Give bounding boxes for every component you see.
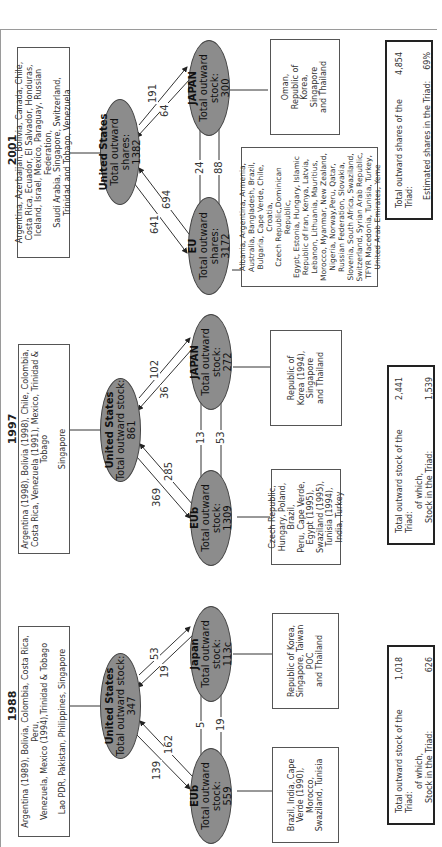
eu-partner-line: Nigeria, Norway,Peru, Qatar, [328,163,337,270]
node-name: United States [104,667,115,744]
eu-partner-line: Albania, Argentina, Armenia, [238,163,247,271]
summary-total-label: Total outward shares of the Triad: [395,80,415,208]
japan-partner-line: Korea, [300,74,310,99]
us-partner-line: Iceland, Israel, Mexico, Paraguay, Russi… [34,51,53,254]
node-value: 300 [220,78,231,97]
node-name: EU [187,239,198,254]
summary-in-triad-value: 1,539 [425,377,435,405]
eu-partner-line: Tunisia (1994), [325,488,335,547]
japan-partner-line: Korea (1994), [297,351,307,405]
us-node: United States Total outward stock: 861 [100,378,141,482]
eu-partner-line: Hungary, Poland, Brazil, [278,473,297,561]
node-label: Total outward stock: [200,315,222,409]
flow-us-to-eu: 641 [150,214,160,235]
node-label: Total outward shares: [109,100,131,204]
us-partner-line: Costa Rica, Venezuela (1991), Mexico, Tr… [31,351,41,547]
us-partner-line: Costa Rica, Ecuador, El Salvador, Hondur… [25,64,35,240]
flow-us-to-japan: 19 [160,664,170,679]
eu-partner-line: Peru, Cape Verde, [297,481,307,552]
eu-partner-countries-box: Brazil, India, Cape Verde (1990), Morocc… [272,747,339,843]
flow-japan-to-us: 102 [150,359,160,380]
node-value: 1382 [131,139,142,164]
japan-partner-line: Republic of [291,65,301,109]
eu-partner-countries-box: Czech Republic, Hungary, Poland, Brazil,… [271,469,341,565]
summary-of-which-label: of which, [415,473,425,509]
triad-summary-box: Total outward shares of the Triad:4,854 … [385,40,433,220]
japan-partner-line: Singapore [310,67,320,107]
summary-in-triad-value: 626 [425,657,435,685]
node-value: 113c [222,642,233,667]
summary-in-triad-value: 69% [423,52,433,80]
flow-eu-to-us: 162 [164,734,174,755]
japan-node: Japan Total outward stock: 113c [190,606,232,702]
summary-total-label: Total outward stock of the Triad: [395,405,415,533]
node-label: Total outward stock: [200,749,222,843]
flow-eu-to-us: 285 [164,461,174,482]
eu-partner-line: Morocco, Myanmar, New Zealand, [319,153,328,281]
us-partner-line: Tobago [40,435,50,463]
japan-partner-countries-box: Oman, Republic of Korea, Singapore and T… [270,39,340,135]
eu-partner-line: Swaziland, Tunisia [315,759,325,832]
japan-partner-line: and Thailand [316,352,326,404]
summary-in-triad-label: Stock in the Triad: [425,451,435,523]
node-label: Total outward stock: [198,41,220,135]
us-node: United States Total outward shares: 1382 [100,99,140,205]
triad-summary-box: Total outward stock of the Triad:1,018 o… [387,645,435,825]
us-partner-countries-box: Argentina (1998), Bolivia (1998), Chile,… [18,344,70,554]
us-partner-line: Argentina, Azerbaijan, Bolivia, Canada, … [15,62,25,243]
eu-partner-line: Slovenia, South Africa, Swaziland, [346,153,355,280]
eu-partner-line: Bulgaria, Cape Verde, Chile, Croatia, [256,151,274,283]
us-partner-line: Argentina (1998), Bolivia (1998), Chile,… [21,349,31,548]
eu-partner-line: Swaziland (1995), [316,481,326,553]
flow-japan-to-us: 191 [148,83,158,104]
us-partner-line: Argentina (1989), Bolivia, Colombia, Cos… [21,630,40,833]
flow-japan-to-eu: 19 [216,717,226,732]
node-value: 1309 [222,505,233,530]
summary-total-value: 1,018 [395,657,415,685]
us-partner-countries-box: Argentina (1989), Bolivia, Colombia, Cos… [18,626,70,837]
node-label: Total outward stock: [115,380,126,481]
node-name: United States [98,113,109,190]
node-value: 861 [126,420,137,439]
node-name: JAPAN [189,345,200,379]
eu-partner-line: Czech Republic, [268,485,278,548]
node-label: Total outward stock: [115,656,126,757]
us-partner-line-2: Lao PDR, Pakistan, Philippines, Singapor… [58,649,68,815]
eu-partner-line: Egypt (1995), [306,490,316,545]
flow-japan-to-eu: 53 [216,430,226,445]
eu-partner-countries-box: Albania, Argentina, Armenia, Australia, … [241,147,378,287]
node-label: Total outward stock: [200,607,222,701]
flow-eu-to-japan: 5 [196,721,206,729]
panel-1997: 1997 Argentina (1998), Bolivia (1998), C… [0,300,437,560]
eu-node: EUb Total outward stock: 559 [190,748,232,844]
eu-node: EUb Total outward stock: 1309 [190,470,232,566]
summary-in-triad-label: Estimated shares in the Triad: [423,81,433,200]
japan-partner-countries-box: Republic of Korea (1994), Singapore and … [270,330,342,426]
eu-partner-line: Verde (1990), Morocco, [296,751,315,839]
japan-partner-line: Oman, [281,74,291,101]
node-name: EUb [189,507,200,529]
flow-us-to-eu: 139 [152,760,162,781]
flow-us-to-eu: 369 [152,487,162,508]
summary-total-label: Total outward stock of the Triad: [395,685,415,813]
node-value: 347 [126,696,137,715]
japan-partner-line: and Thailand [319,61,329,113]
japan-node: JAPAN Total outward stock: 272 [190,314,232,410]
node-name: EUb [189,785,200,807]
node-value: 272 [222,352,233,371]
flow-eu-to-japan: 24 [195,160,205,175]
panel-1988: 1988 Argentina (1989), Bolivia, Colombia… [0,580,437,847]
eu-partner-line: Russian Federation, Slovakia, [337,162,346,272]
eu-partner-line: Lebanon, Lithuania, Mauritius, [310,160,319,273]
panel-2001: 2001 Argentina, Azerbaijan, Bolivia, Can… [0,30,437,290]
flow-eu-to-us: 694 [162,189,172,210]
eu-partner-line: Czech Republic,Dominican Republic, [274,151,292,283]
flow-us-to-japan: 64 [160,103,170,118]
summary-of-which-label: of which, [415,753,425,789]
triad-diagram: 1988 Argentina (1989), Bolivia, Colombia… [0,0,442,847]
us-node: United States Total outward stock: 347 [100,653,141,759]
node-name: United States [104,391,115,468]
eu-partner-line: Brazil, India, Cape [287,759,297,832]
eu-partner-line: Australia, Bangladesh, Brazil, [247,162,256,272]
japan-partner-line: Republic of Korea, [287,625,297,697]
